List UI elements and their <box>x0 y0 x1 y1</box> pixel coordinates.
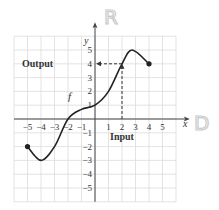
range-handwritten-mark: R <box>104 5 118 29</box>
svg-text:−5: −5 <box>82 183 92 193</box>
svg-text:3: 3 <box>133 122 138 132</box>
svg-text:3: 3 <box>88 73 93 83</box>
axes <box>14 22 190 202</box>
domain-handwritten-mark: D <box>194 111 209 135</box>
svg-text:5: 5 <box>88 45 93 55</box>
svg-text:1: 1 <box>88 100 93 110</box>
svg-text:−3: −3 <box>82 155 92 165</box>
svg-text:−2: −2 <box>82 142 92 152</box>
svg-text:4: 4 <box>88 59 93 69</box>
svg-text:−3: −3 <box>50 122 60 132</box>
input-output-guides <box>96 61 125 119</box>
input-label: Input <box>110 131 135 142</box>
svg-text:2: 2 <box>88 86 93 96</box>
svg-text:−4: −4 <box>82 169 92 179</box>
svg-text:5: 5 <box>160 122 165 132</box>
svg-text:−1: −1 <box>82 128 92 138</box>
svg-text:−4: −4 <box>36 122 46 132</box>
svg-text:4: 4 <box>147 122 152 132</box>
function-graph: −5−4−3−2−11234554321−1−2−3−4−5 y x f Out… <box>0 0 219 210</box>
output-label: Output <box>22 58 54 69</box>
y-axis-label: y <box>83 35 89 46</box>
x-axis-label: x <box>182 118 188 129</box>
svg-text:−5: −5 <box>23 122 33 132</box>
